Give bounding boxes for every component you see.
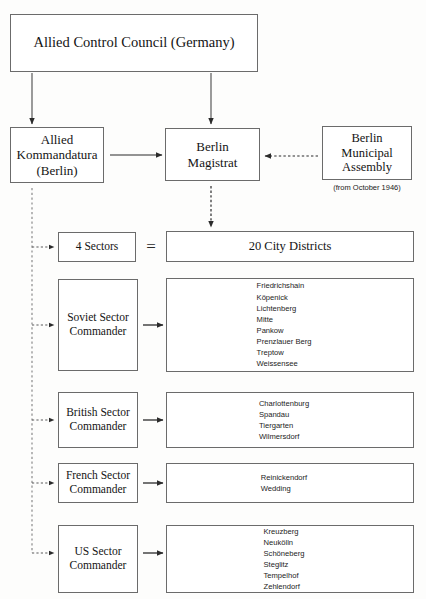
soviet-sector-district-list: Friedrichshain Köpenick Lichtenberg Mitt… [257, 280, 312, 369]
twenty-city-districts-label: 20 City Districts [167, 239, 413, 254]
british-sector-commander-line-1: British Sector [59, 406, 137, 420]
list-item: Köpenick [257, 292, 312, 303]
allied-kommandatura-line-1: Allied [11, 132, 103, 147]
allied-control-council-text: Allied Control Council (Germany) [11, 34, 257, 51]
berlin-magistrat-label: Berlin Magistrat [166, 139, 259, 170]
list-item: Prenzlauer Berg [257, 336, 312, 347]
us-sector-commander-box: US Sector Commander [58, 525, 138, 593]
berlin-municipal-assembly-box: Berlin Municipal Assembly [322, 126, 412, 180]
four-sectors-label: 4 Sectors [59, 240, 135, 254]
list-item: Wedding [261, 483, 307, 494]
org-chart-canvas: Allied Control Council (Germany) Allied … [0, 0, 426, 599]
berlin-magistrat-line-2: Magistrat [166, 155, 259, 170]
berlin-municipal-assembly-line-1: Berlin [323, 131, 411, 146]
us-sector-district-list: Kreuzberg Neukölln Schöneberg Steglitz T… [264, 526, 305, 593]
berlin-municipal-assembly-label: Berlin Municipal Assembly [323, 131, 411, 175]
list-item: Friedrichshain [257, 280, 312, 291]
us-sector-districts-box: Kreuzberg Neukölln Schöneberg Steglitz T… [166, 525, 414, 593]
soviet-sector-commander-line-1: Soviet Sector [59, 311, 137, 325]
soviet-sector-commander-line-2: Commander [59, 325, 137, 339]
list-item: Tempelhof [264, 570, 305, 581]
british-sector-district-list: Charlottenburg Spandau Tiergarten Wilmer… [259, 398, 309, 443]
british-sector-commander-line-2: Commander [59, 420, 137, 434]
list-item: Tiergarten [259, 420, 309, 431]
list-item: Lichtenberg [257, 303, 312, 314]
us-sector-commander-label: US Sector Commander [59, 545, 137, 572]
berlin-municipal-assembly-line-3: Assembly [323, 160, 411, 175]
berlin-municipal-assembly-line-2: Municipal [323, 146, 411, 161]
berlin-magistrat-line-1: Berlin [166, 139, 259, 154]
allied-kommandatura-label: Allied Kommandatura (Berlin) [11, 132, 103, 178]
equals-sign: = [140, 236, 162, 258]
allied-kommandatura-line-2: Kommandatura [11, 147, 103, 162]
berlin-magistrat-box: Berlin Magistrat [165, 128, 260, 181]
us-sector-commander-line-1: US Sector [59, 545, 137, 559]
berlin-municipal-assembly-note: (from October 1946) [322, 183, 412, 192]
french-sector-district-list: Reinickendorf Wedding [261, 472, 307, 494]
french-sector-commander-line-2: Commander [59, 483, 137, 497]
twenty-city-districts-text: 20 City Districts [167, 239, 413, 254]
list-item: Steglitz [264, 559, 305, 570]
french-sector-commander-label: French Sector Commander [59, 469, 137, 496]
list-item: Treptow [257, 347, 312, 358]
british-sector-districts-box: Charlottenburg Spandau Tiergarten Wilmer… [166, 392, 414, 448]
british-sector-commander-label: British Sector Commander [59, 406, 137, 433]
list-item: Kreuzberg [264, 526, 305, 537]
list-item: Schöneberg [264, 548, 305, 559]
french-sector-districts-box: Reinickendorf Wedding [166, 463, 414, 503]
us-sector-commander-line-2: Commander [59, 559, 137, 573]
british-sector-commander-box: British Sector Commander [58, 392, 138, 448]
allied-kommandatura-box: Allied Kommandatura (Berlin) [10, 127, 104, 183]
list-item: Charlottenburg [259, 398, 309, 409]
list-item: Spandau [259, 409, 309, 420]
four-sectors-text: 4 Sectors [59, 240, 135, 254]
list-item: Weissensee [257, 358, 312, 369]
soviet-sector-commander-label: Soviet Sector Commander [59, 311, 137, 338]
list-item: Zehlendorf [264, 581, 305, 592]
french-sector-commander-box: French Sector Commander [58, 463, 138, 503]
allied-control-council-label: Allied Control Council (Germany) [11, 34, 257, 51]
list-item: Reinickendorf [261, 472, 307, 483]
four-sectors-box: 4 Sectors [58, 232, 136, 262]
soviet-sector-commander-box: Soviet Sector Commander [58, 279, 138, 371]
list-item: Pankow [257, 325, 312, 336]
twenty-city-districts-box: 20 City Districts [166, 231, 414, 262]
french-sector-commander-line-1: French Sector [59, 469, 137, 483]
allied-control-council-box: Allied Control Council (Germany) [10, 14, 258, 72]
list-item: Wilmersdorf [259, 431, 309, 442]
allied-kommandatura-line-3: (Berlin) [11, 163, 103, 178]
list-item: Mitte [257, 314, 312, 325]
soviet-sector-districts-box: Friedrichshain Köpenick Lichtenberg Mitt… [166, 278, 414, 372]
list-item: Neukölln [264, 537, 305, 548]
